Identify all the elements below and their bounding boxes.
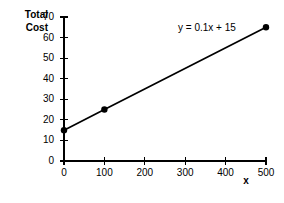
y-tick-label: 60 [34, 33, 54, 43]
y-tick-label: 70 [34, 12, 54, 22]
y-tick-label: 20 [34, 115, 54, 125]
data-series-group [61, 24, 269, 133]
y-tick-label: 50 [34, 53, 54, 63]
x-tick-label: 200 [130, 168, 160, 178]
data-point [101, 106, 107, 112]
x-tick-label: 0 [49, 168, 79, 178]
y-tick-label: 40 [34, 74, 54, 84]
data-point [263, 24, 269, 30]
y-tick-label: 30 [34, 94, 54, 104]
line-equation-annotation: y = 0.1x + 15 [178, 22, 236, 33]
data-point [61, 127, 67, 133]
y-tick-label: 10 [34, 135, 54, 145]
y-tick-label: 0 [34, 156, 54, 166]
x-tick-label: 300 [170, 168, 200, 178]
series-line-total-cost [64, 27, 266, 130]
axes-group [64, 16, 266, 161]
x-axis-title: x [236, 175, 256, 186]
x-tick-label: 100 [89, 168, 119, 178]
chart-figure: Total Cost 010203040506070 0100200300400… [0, 0, 284, 203]
